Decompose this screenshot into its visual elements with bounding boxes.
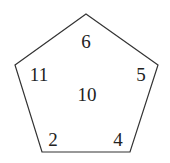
label-left: 11	[30, 64, 48, 85]
pentagon-diagram: 6 11 5 10 2 4	[0, 0, 170, 163]
label-center: 10	[78, 84, 97, 105]
label-right: 5	[136, 64, 146, 85]
label-bottom-right: 4	[113, 129, 123, 150]
label-bottom-left: 2	[48, 129, 58, 150]
label-top: 6	[81, 31, 91, 52]
